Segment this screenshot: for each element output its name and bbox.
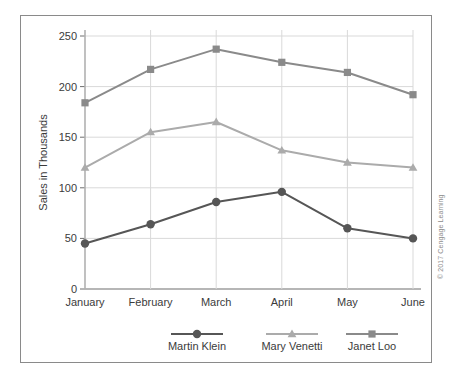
x-tick-label: February [129,296,174,308]
legend-label: Janet Loo [348,340,396,352]
x-tick-label: June [401,296,425,308]
data-point-marker [212,118,221,126]
data-point-marker [409,234,417,242]
data-point-marker [343,224,351,232]
x-tick-label: January [65,296,105,308]
data-point-marker [409,91,416,98]
series-line [85,49,413,103]
data-point-marker [368,330,375,337]
data-point-marker [81,239,89,247]
chart-frame: 050100150200250JanuaryFebruaryMarchApril… [20,15,432,363]
data-point-marker [81,99,88,106]
legend-label: Martin Klein [168,340,226,352]
x-tick-label: March [201,296,232,308]
legend-item-mary-venetti[interactable]: Mary Venetti [261,330,322,352]
data-point-marker [146,220,154,228]
data-point-marker [278,188,286,196]
data-point-marker [147,66,154,73]
legend-label: Mary Venetti [261,340,322,352]
y-tick-label: 200 [59,81,77,93]
y-tick-label: 50 [65,232,77,244]
x-tick-label: April [271,296,293,308]
y-tick-label: 150 [59,131,77,143]
series-line [85,192,413,244]
series-mary-venetti [81,118,418,171]
legend-item-martin-klein[interactable]: Martin Klein [168,330,226,352]
data-point-marker [344,69,351,76]
data-point-marker [213,46,220,53]
series-line [85,122,413,168]
y-axis-title: Sales in Thousands [37,114,49,211]
chart-plot-area: 050100150200250JanuaryFebruaryMarchApril… [21,16,431,362]
legend-item-janet-loo[interactable]: Janet Loo [346,330,398,352]
data-point-marker [193,330,201,338]
y-tick-label: 250 [59,30,77,42]
x-tick-label: May [337,296,358,308]
data-point-marker [278,59,285,66]
series-janet-loo [81,46,416,107]
data-point-marker [212,198,220,206]
y-tick-label: 100 [59,182,77,194]
y-tick-label: 0 [71,283,77,295]
line-chart-figure: 050100150200250JanuaryFebruaryMarchApril… [0,0,462,379]
copyright-notice: © 2017 Cengage Learning [437,189,444,279]
